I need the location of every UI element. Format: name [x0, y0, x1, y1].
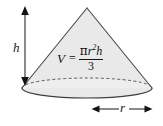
cone-diagram-canvas	[0, 0, 163, 126]
radius-arrowhead-right	[145, 105, 153, 112]
height-arrowhead-up	[21, 6, 29, 15]
radius-arrowhead-left	[92, 105, 100, 112]
radius-dimension-arrow	[92, 105, 153, 112]
cone-volume-figure: h r V = πr2h 3	[0, 0, 163, 126]
height-dimension-arrow	[21, 6, 29, 86]
